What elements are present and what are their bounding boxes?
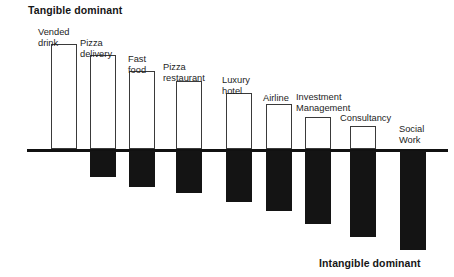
bar-group-pizza-restaurant: [176, 0, 202, 277]
tangibility-spectrum-chart: Tangible dominant Vended drinkPizza deli…: [0, 0, 454, 277]
intangible-bar-fast-food: [129, 151, 155, 187]
tangible-bar-vended-drink: [51, 44, 77, 149]
bar-label-pizza-delivery: Pizza delivery: [80, 38, 112, 59]
tangible-bar-pizza-restaurant: [176, 81, 202, 149]
bar-label-social-work: Social Work: [399, 124, 424, 145]
tangible-bar-fast-food: [129, 71, 155, 149]
bar-label-airline: Airline: [263, 93, 289, 104]
bar-label-vended-drink: Vended drink: [38, 27, 70, 48]
bar-group-luxury-hotel: [226, 0, 252, 277]
bar-group-fast-food: [129, 0, 155, 277]
tangible-bar-investment-management: [305, 117, 331, 149]
bar-label-pizza-restaurant: Pizza restaurant: [163, 62, 205, 83]
tangible-bar-airline: [266, 104, 292, 149]
intangible-bar-consultancy: [350, 151, 376, 237]
bar-label-consultancy: Consultancy: [340, 113, 391, 124]
bar-group-airline: [266, 0, 292, 277]
tangible-bar-luxury-hotel: [226, 93, 252, 149]
intangible-bar-luxury-hotel: [226, 151, 252, 202]
intangible-bar-pizza-delivery: [90, 151, 116, 177]
intangible-bar-investment-management: [305, 151, 331, 224]
bar-group-consultancy: [350, 0, 376, 277]
tangible-bar-consultancy: [350, 126, 376, 149]
intangible-bar-pizza-restaurant: [176, 151, 202, 193]
tangible-bar-pizza-delivery: [90, 55, 116, 149]
bar-label-investment-management: Investment Management: [296, 92, 350, 113]
intangible-bar-airline: [266, 151, 292, 211]
bar-label-fast-food: Fast food: [128, 54, 146, 75]
intangible-bar-social-work: [400, 151, 426, 250]
intangible-dominant-annotation: Intangible dominant: [319, 257, 421, 269]
bar-label-luxury-hotel: Luxury hotel: [222, 75, 250, 96]
bar-group-investment-management: [305, 0, 331, 277]
